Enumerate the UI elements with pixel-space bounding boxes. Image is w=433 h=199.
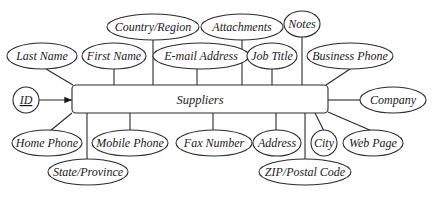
attribute-label: Business Phone — [312, 49, 388, 63]
attribute-job-title: Job Title — [247, 43, 297, 69]
attribute-label: Address — [257, 136, 297, 150]
entity-label: Suppliers — [176, 93, 223, 107]
attribute-label: ZIP/Postal Code — [265, 165, 346, 179]
er-diagram: Suppliers ID Country/Region Attachments … — [0, 0, 433, 199]
attribute-business-phone: Business Phone — [307, 43, 393, 69]
attribute-label: City — [314, 136, 335, 150]
entity-suppliers: Suppliers — [72, 85, 328, 113]
attribute-label: Fax Number — [183, 136, 245, 150]
attribute-label: Attachments — [211, 20, 272, 34]
attribute-label: Notes — [287, 17, 316, 31]
attribute-country-region: Country/Region — [107, 14, 199, 40]
attribute-fax-number: Fax Number — [176, 130, 252, 156]
attribute-city: City — [311, 130, 337, 156]
attribute-attachments: Attachments — [201, 14, 283, 40]
attribute-notes: Notes — [284, 11, 320, 37]
attribute-label: Company — [370, 93, 417, 107]
attribute-zip-postal-code: ZIP/Postal Code — [259, 159, 351, 185]
attribute-state-province: State/Province — [48, 159, 128, 185]
attribute-home-phone: Home Phone — [12, 130, 82, 156]
attribute-id: ID — [13, 87, 39, 113]
attribute-web-page: Web Page — [343, 130, 403, 156]
attribute-label: ID — [19, 93, 33, 107]
attribute-label: Home Phone — [15, 136, 79, 150]
attribute-last-name: Last Name — [7, 43, 77, 69]
attribute-label: Last Name — [15, 49, 68, 63]
attribute-address: Address — [253, 130, 301, 156]
attribute-mobile-phone: Mobile Phone — [92, 130, 168, 156]
attribute-label: Country/Region — [115, 20, 192, 34]
attribute-label: Web Page — [349, 136, 398, 150]
attribute-email-address: E-mail Address — [153, 43, 249, 69]
attribute-label: State/Province — [53, 165, 124, 179]
attribute-label: E-mail Address — [163, 49, 238, 63]
attribute-company: Company — [360, 87, 426, 113]
attribute-label: First Name — [86, 49, 142, 63]
attribute-first-name: First Name — [82, 43, 146, 69]
attribute-label: Mobile Phone — [95, 136, 164, 150]
attribute-label: Job Title — [251, 49, 293, 63]
